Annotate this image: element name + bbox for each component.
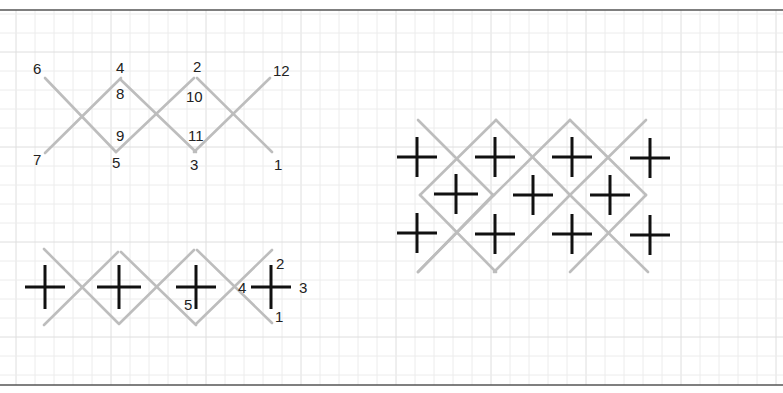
cross-stitch-icon <box>630 138 670 178</box>
stitch-order-label: 4 <box>238 279 246 296</box>
stitch-order-label: 12 <box>273 62 290 79</box>
cross-stitch-icon <box>475 214 515 254</box>
thread-line <box>194 78 270 152</box>
cross-stitch-icon <box>513 175 553 215</box>
stitch-order-label: 5 <box>184 296 192 313</box>
thread-line <box>116 78 194 152</box>
cross-stitch-icon <box>475 137 515 177</box>
cross-stitch-icon <box>630 215 670 255</box>
cross-stitch-icon <box>176 265 216 309</box>
stitch-order-label: 4 <box>116 59 124 76</box>
cross-stitch-icon <box>97 265 141 309</box>
cross-stitch-icon <box>397 137 437 177</box>
stitch-order-label: 8 <box>116 85 124 102</box>
stitch-order-label: 6 <box>33 60 41 77</box>
stitch-order-label: 2 <box>193 58 201 75</box>
stitch-order-label: 3 <box>190 156 198 173</box>
cross-row-diagram: 23451 <box>25 249 307 325</box>
stitch-order-label: 11 <box>188 127 204 144</box>
thread-line <box>121 80 196 152</box>
cross-stitch-icon <box>251 265 291 309</box>
stitch-order-label: 1 <box>275 308 283 325</box>
stitch-order-label: 9 <box>116 127 124 144</box>
stitch-order-label: 10 <box>186 88 203 105</box>
stitch-order-label: 5 <box>112 154 120 171</box>
stitch-order-label: 3 <box>299 279 307 296</box>
cross-stitch-icon <box>434 174 478 214</box>
thread-line <box>197 78 272 152</box>
stitch-diagram-canvas: 642128109117531 23451 <box>0 0 783 393</box>
cross-stitch-icon <box>397 213 437 253</box>
numbered-stitch-diagram: 642128109117531 <box>33 58 290 173</box>
stitch-order-label: 2 <box>276 255 284 272</box>
diamond-lattice-diagram <box>397 120 670 272</box>
stitch-order-label: 1 <box>274 156 282 173</box>
cross-stitch-icon <box>25 265 65 309</box>
stitch-order-label: 7 <box>33 151 41 168</box>
